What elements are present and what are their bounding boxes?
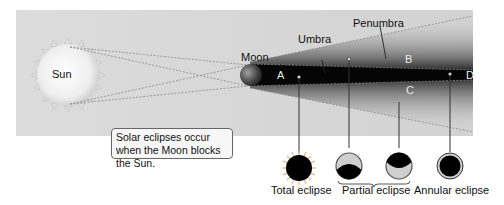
- partial-eclipse-icon-1: [336, 153, 362, 179]
- annular-eclipse-icon: [437, 153, 463, 179]
- region-b-label: B: [405, 53, 412, 65]
- moon-icon: [240, 64, 262, 86]
- sun-label: Sun: [52, 68, 72, 80]
- partial-eclipse-icon-2: [386, 153, 412, 179]
- annular-eclipse-caption: Annular eclipse: [414, 184, 489, 196]
- region-d-label: D: [466, 69, 474, 81]
- umbra-label: Umbra: [298, 33, 331, 45]
- total-eclipse-icon: [282, 151, 316, 185]
- moon-label: Moon: [241, 51, 269, 63]
- region-a-label: A: [277, 69, 284, 81]
- penumbra-label: Penumbra: [353, 17, 404, 29]
- eclipse-diagram: [0, 0, 504, 205]
- total-eclipse-caption: Total eclipse: [271, 184, 332, 196]
- partial-eclipse-caption: Partial eclipse: [342, 184, 410, 196]
- region-c-label: C: [406, 84, 414, 96]
- explanation-note: Solar eclipses occur when the Moon block…: [111, 128, 233, 159]
